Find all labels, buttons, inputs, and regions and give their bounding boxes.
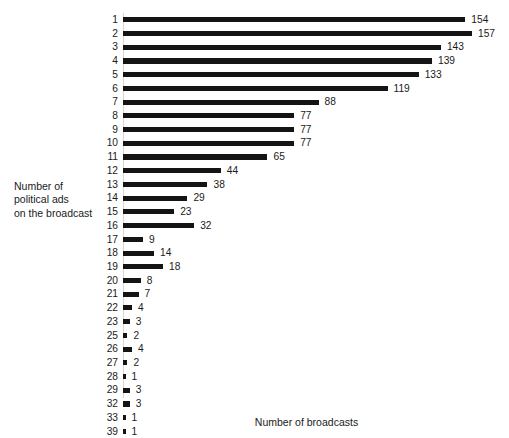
- bar: [123, 251, 154, 256]
- bar-track: 2: [123, 356, 509, 370]
- bar-track: 2: [123, 329, 509, 343]
- bar-value-label: 119: [394, 82, 410, 96]
- bar-row: 264: [0, 342, 509, 356]
- bar-row: 1918: [0, 260, 509, 274]
- bar-value-label: 139: [438, 54, 455, 68]
- bar: [123, 113, 294, 118]
- bar: [123, 86, 388, 91]
- bar-track: 9: [123, 233, 509, 247]
- bar: [123, 347, 132, 352]
- bar-track: 1: [123, 370, 509, 384]
- category-label: 10: [78, 136, 118, 150]
- bar-row: 179: [0, 233, 509, 247]
- bar-track: 88: [123, 95, 509, 109]
- bar: [123, 127, 294, 132]
- bar: [123, 100, 319, 105]
- bar-track: 139: [123, 54, 509, 68]
- category-label: 27: [78, 356, 118, 370]
- bar: [123, 223, 194, 228]
- bar: [123, 278, 141, 283]
- bar-row: 1632: [0, 219, 509, 233]
- bar-value-label: 14: [160, 246, 171, 260]
- bar: [123, 45, 441, 50]
- category-label: 2: [78, 27, 118, 41]
- category-label: 14: [78, 191, 118, 205]
- bar-value-label: 77: [300, 123, 311, 137]
- category-label: 32: [78, 397, 118, 411]
- bar-value-label: 77: [300, 136, 311, 150]
- bar-value-label: 65: [273, 150, 284, 164]
- bar-track: 119: [123, 82, 509, 96]
- bar-row: 877: [0, 109, 509, 123]
- bar-track: 14: [123, 246, 509, 260]
- bar-value-label: 32: [200, 219, 211, 233]
- bar-row: 788: [0, 95, 509, 109]
- bar-value-label: 9: [149, 233, 155, 247]
- bar: [123, 237, 143, 242]
- bar-row: 6119: [0, 82, 509, 96]
- category-label: 19: [78, 260, 118, 274]
- bar-track: 133: [123, 68, 509, 82]
- bar: [123, 264, 163, 269]
- bar: [123, 401, 130, 406]
- bar-row: 3143: [0, 40, 509, 54]
- bar-row: 293: [0, 383, 509, 397]
- bar-track: 3: [123, 397, 509, 411]
- bar-row: 323: [0, 397, 509, 411]
- category-label: 7: [78, 95, 118, 109]
- bar-track: 65: [123, 150, 509, 164]
- x-axis-label: Number of broadcasts: [0, 416, 509, 428]
- category-label: 15: [78, 205, 118, 219]
- bar: [123, 292, 139, 297]
- bar-track: 3: [123, 383, 509, 397]
- category-label: 13: [78, 178, 118, 192]
- bar-row: 1077: [0, 136, 509, 150]
- bar: [123, 72, 419, 77]
- bar-row: 1244: [0, 164, 509, 178]
- bar-track: 77: [123, 136, 509, 150]
- bar: [123, 17, 465, 22]
- bar-row: 281: [0, 370, 509, 384]
- bar: [123, 168, 221, 173]
- bar-row: 252: [0, 329, 509, 343]
- category-label: 18: [78, 246, 118, 260]
- bar-value-label: 7: [145, 287, 151, 301]
- bar-track: 18: [123, 260, 509, 274]
- bar-track: 3: [123, 315, 509, 329]
- bar-row: 233: [0, 315, 509, 329]
- bar-track: 23: [123, 205, 509, 219]
- bar: [123, 429, 126, 434]
- bar-track: 143: [123, 40, 509, 54]
- category-label: 8: [78, 109, 118, 123]
- bar-value-label: 2: [133, 356, 139, 370]
- bar-value-label: 2: [133, 329, 139, 343]
- category-label: 11: [78, 150, 118, 164]
- bar-value-label: 157: [478, 27, 495, 41]
- category-label: 25: [78, 329, 118, 343]
- bar-track: 4: [123, 301, 509, 315]
- bar-track: 154: [123, 13, 509, 27]
- bar-value-label: 154: [471, 13, 488, 27]
- category-label: 28: [78, 370, 118, 384]
- bar-row: 1165: [0, 150, 509, 164]
- category-label: 22: [78, 301, 118, 315]
- bar-row: 1429: [0, 191, 509, 205]
- bar-track: 29: [123, 191, 509, 205]
- category-label: 29: [78, 383, 118, 397]
- category-label: 21: [78, 287, 118, 301]
- bar: [123, 388, 130, 393]
- bar-track: 44: [123, 164, 509, 178]
- bar-row: 1814: [0, 246, 509, 260]
- bar-track: 38: [123, 178, 509, 192]
- bar-value-label: 1: [132, 370, 138, 384]
- bar-row: 5133: [0, 68, 509, 82]
- plot-area: 1154215731434139513361197888779771077116…: [0, 13, 509, 398]
- category-label: 12: [78, 164, 118, 178]
- bar: [123, 154, 267, 159]
- bar: [123, 196, 187, 201]
- bar-value-label: 23: [180, 205, 191, 219]
- bar-value-label: 3: [136, 315, 142, 329]
- x-axis-label-text: Number of broadcasts: [255, 416, 358, 428]
- bar-track: 157: [123, 27, 509, 41]
